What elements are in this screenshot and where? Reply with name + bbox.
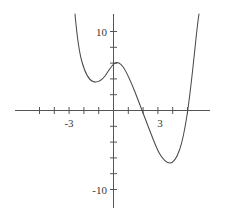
y-axis-label-ten: 10 [96, 26, 108, 38]
x-axis-label-negative-three: -3 [64, 117, 74, 129]
chart-container: -3 3 10 -10 [0, 0, 225, 217]
y-axis-label-negative-ten: -10 [92, 184, 107, 196]
quartic-function-plot: -3 3 10 -10 [0, 0, 225, 217]
quartic-curve [75, 14, 199, 163]
x-axis-label-three: 3 [157, 117, 163, 129]
